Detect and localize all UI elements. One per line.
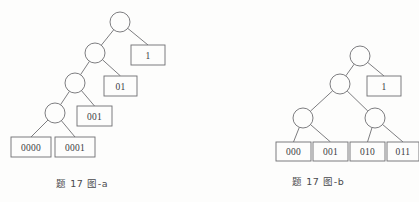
tree-node-circle	[350, 46, 370, 66]
caption-figure-a: 题 17 图-a	[56, 176, 108, 190]
leaf-label: 01	[115, 82, 125, 92]
leaf-label: 0000	[21, 143, 41, 153]
leaf-label: 1	[145, 51, 150, 61]
tree-node-circle	[110, 12, 130, 32]
tree-leaf: 1	[367, 76, 401, 96]
tree-leaf: 001	[313, 142, 348, 161]
tree-edge	[311, 125, 331, 142]
tree-leaf: 1	[131, 45, 165, 65]
tree-edge	[347, 91, 368, 111]
tree-node-circle	[365, 108, 385, 128]
tree-edge	[81, 91, 94, 106]
tree-edge	[81, 61, 90, 74]
tree-leaf: 01	[104, 76, 137, 96]
tree-leaf: 010	[350, 142, 385, 161]
tree-node-circle	[65, 73, 85, 93]
tree-edge	[102, 60, 120, 76]
tree-edge	[61, 121, 75, 137]
tree-leaf: 001	[77, 106, 112, 126]
tree-edge	[368, 128, 373, 142]
tree-leaf: 011	[387, 142, 419, 161]
tree-edge	[294, 127, 300, 142]
tree-node-circle	[85, 43, 105, 63]
leaf-label: 001	[87, 112, 102, 122]
tree-node-circle	[330, 74, 350, 94]
tree-edge	[383, 125, 403, 142]
tree-leaf: 000	[276, 142, 311, 161]
tree-leaf: 0000	[11, 137, 51, 157]
leaf-label: 1	[381, 82, 386, 92]
leaf-label: 001	[323, 147, 338, 157]
tree-node-circle	[293, 108, 313, 128]
leaf-label: 000	[286, 147, 301, 157]
leaf-label: 011	[396, 147, 411, 157]
caption-figure-b: 题 17 图-b	[292, 174, 344, 188]
tree-edge	[101, 30, 113, 45]
tree-edge	[31, 120, 48, 137]
tree-edge	[346, 64, 354, 76]
binary-tree-diagram: 101001000000011000001010011	[0, 0, 419, 202]
tree-edge	[310, 91, 332, 111]
figure-canvas: 101001000000011000001010011 题 17 图-a 题 1…	[0, 0, 419, 202]
leaf-label: 0001	[65, 143, 85, 153]
tree-edge	[128, 28, 148, 45]
leaf-label: 010	[360, 147, 375, 157]
tree-leaf: 0001	[55, 137, 95, 157]
tree-node-circle	[45, 103, 65, 123]
tree-edge	[61, 91, 70, 104]
tree-edge	[368, 62, 384, 76]
